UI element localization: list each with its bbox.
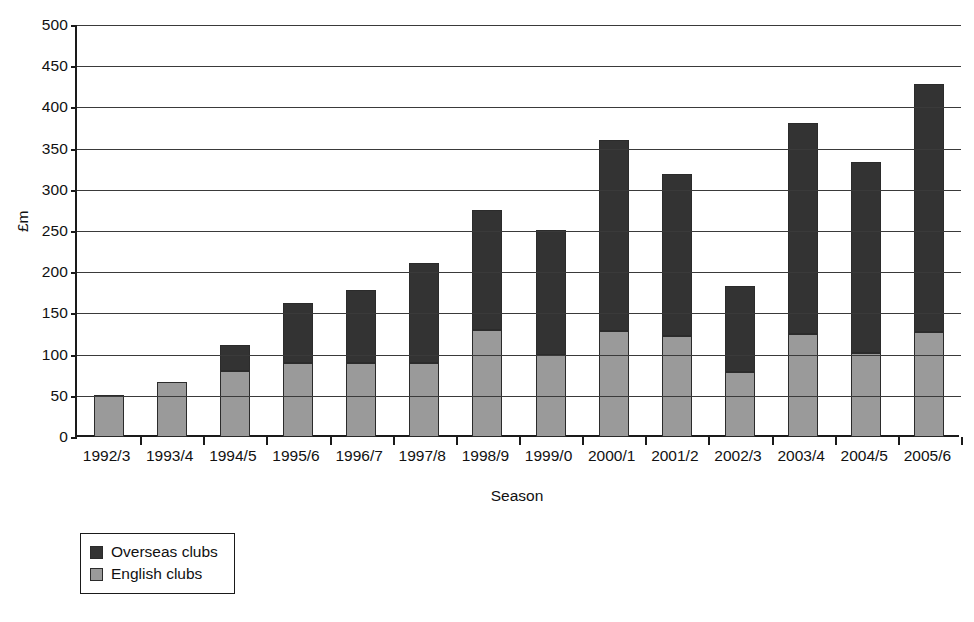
bar-segment-overseas-clubs: [662, 174, 692, 336]
y-axis-tick-mark: [71, 190, 77, 192]
gridline: [77, 190, 961, 191]
x-axis-tick-label: 1997/8: [399, 447, 446, 465]
x-axis-tick-mark: [266, 437, 268, 445]
x-axis-tick-mark: [519, 437, 521, 445]
y-axis-tick-mark: [71, 313, 77, 315]
y-axis-tick-label: 300: [42, 181, 68, 199]
bar-segment-english-clubs: [157, 382, 187, 437]
x-axis-tick-mark: [582, 437, 584, 445]
x-axis-tick-mark: [772, 437, 774, 445]
y-axis-tick-label: 450: [42, 57, 68, 75]
x-axis-tick-label: 1999/0: [525, 447, 572, 465]
plot-area: 050100150200250300350400450500: [75, 25, 959, 437]
bar-segment-english-clubs: [346, 363, 376, 437]
chart-legend: Overseas clubsEnglish clubs: [80, 533, 235, 594]
bar-segment-english-clubs: [94, 395, 124, 437]
x-axis-tick-mark: [203, 437, 205, 445]
y-axis-tick-mark: [71, 149, 77, 151]
x-axis-tick-mark: [898, 437, 900, 445]
bar-segment-overseas-clubs: [725, 286, 755, 372]
y-axis-tick-label: 500: [42, 16, 68, 34]
y-axis-tick-mark: [71, 355, 77, 357]
bar-segment-english-clubs: [472, 330, 502, 437]
x-axis-tick-mark: [330, 437, 332, 445]
legend-swatch-overseas: [90, 546, 103, 559]
legend-item: Overseas clubs: [90, 541, 218, 563]
gridline: [77, 66, 961, 67]
x-axis-tick-mark: [393, 437, 395, 445]
y-axis-tick-mark: [71, 66, 77, 68]
x-axis-tick-label: 2004/5: [841, 447, 888, 465]
bar-segment-english-clubs: [725, 372, 755, 437]
gridline: [77, 272, 961, 273]
x-axis-tick-label: 2003/4: [777, 447, 824, 465]
x-axis-tick-label: 2002/3: [714, 447, 761, 465]
x-axis-tick-mark: [961, 437, 963, 445]
bar-segment-overseas-clubs: [346, 290, 376, 363]
x-axis-tick-label: 1995/6: [272, 447, 319, 465]
gridline: [77, 396, 961, 397]
gridline: [77, 25, 961, 26]
y-axis-title: £m: [14, 210, 32, 232]
gridline: [77, 231, 961, 232]
x-axis-tick-label: 1992/3: [83, 447, 130, 465]
x-axis-tick-label: 1993/4: [146, 447, 193, 465]
stacked-bar-chart: £m 050100150200250300350400450500 1992/3…: [0, 0, 974, 622]
legend-item: English clubs: [90, 563, 218, 585]
bar-segment-english-clubs: [220, 371, 250, 437]
y-axis-tick-mark: [71, 437, 77, 439]
x-axis-tick-label: 1994/5: [209, 447, 256, 465]
y-axis-tick-label: 250: [42, 222, 68, 240]
bar-segment-english-clubs: [788, 334, 818, 437]
y-axis-tick-label: 150: [42, 304, 68, 322]
bar-segment-english-clubs: [662, 336, 692, 437]
bar-segment-overseas-clubs: [536, 230, 566, 355]
y-axis-tick-mark: [71, 272, 77, 274]
bar-segment-english-clubs: [599, 331, 629, 437]
bar-segment-overseas-clubs: [472, 210, 502, 329]
legend-item-label: English clubs: [111, 565, 202, 583]
bar-segment-english-clubs: [409, 363, 439, 437]
x-axis-tick-label: 1998/9: [462, 447, 509, 465]
gridline: [77, 149, 961, 150]
y-axis-tick-mark: [71, 25, 77, 27]
x-axis-tick-label: 1996/7: [335, 447, 382, 465]
x-axis-tick-mark: [140, 437, 142, 445]
x-axis-tick-label: 2001/2: [651, 447, 698, 465]
gridline: [77, 107, 961, 108]
y-axis-tick-label: 350: [42, 140, 68, 158]
y-axis-tick-label: 50: [51, 387, 68, 405]
y-axis-tick-mark: [71, 396, 77, 398]
bar-segment-english-clubs: [914, 332, 944, 437]
bar-segment-overseas-clubs: [914, 84, 944, 333]
gridline: [77, 355, 961, 356]
x-axis-tick-marks: [77, 437, 961, 445]
bar-segment-overseas-clubs: [788, 123, 818, 334]
bar-segment-english-clubs: [283, 363, 313, 437]
legend-swatch-english: [90, 568, 103, 581]
bar-segment-overseas-clubs: [220, 345, 250, 371]
y-axis-tick-label: 100: [42, 346, 68, 364]
x-axis-tick-label: 2005/6: [904, 447, 951, 465]
bar-segment-overseas-clubs: [599, 140, 629, 331]
x-axis-tick-labels: 1992/31993/41994/51995/61996/71997/81998…: [75, 447, 959, 469]
y-axis-tick-label: 200: [42, 263, 68, 281]
gridline: [77, 313, 961, 314]
x-axis-tick-mark: [645, 437, 647, 445]
y-axis-tick-label: 400: [42, 98, 68, 116]
x-axis-tick-mark: [708, 437, 710, 445]
y-axis-tick-mark: [71, 107, 77, 109]
x-axis-tick-mark: [456, 437, 458, 445]
x-axis-title: Season: [75, 487, 959, 505]
legend-item-label: Overseas clubs: [111, 543, 218, 561]
x-axis-tick-mark: [835, 437, 837, 445]
y-axis-tick-label: 0: [59, 428, 68, 446]
x-axis-tick-label: 2000/1: [588, 447, 635, 465]
y-axis-tick-mark: [71, 231, 77, 233]
